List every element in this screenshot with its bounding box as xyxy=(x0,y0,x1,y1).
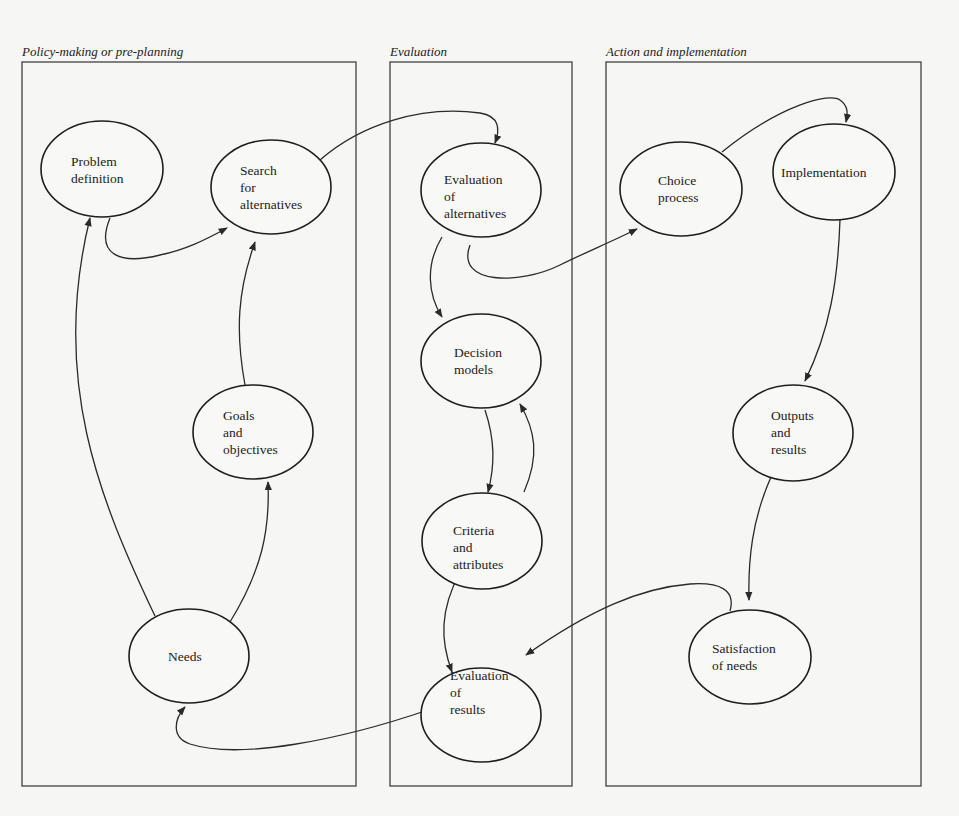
node-criteria-attributes xyxy=(422,493,542,589)
node-goals-objectives xyxy=(193,385,313,479)
label-needs: Needs xyxy=(168,649,202,664)
label-implementation: Implementation xyxy=(781,165,867,180)
edge-needs-to-goals xyxy=(230,482,268,622)
node-satisfaction-needs xyxy=(689,610,811,704)
edge-decision-to-criteria xyxy=(485,410,493,492)
node-problem-definition xyxy=(41,121,163,217)
edge-problem-to-search xyxy=(106,218,227,259)
edge-needs-to-problem xyxy=(76,218,155,616)
node-search-alternatives xyxy=(211,140,331,234)
node-evaluation-alternatives xyxy=(421,143,541,237)
process-diagram: Problemdefinition Searchforalternatives … xyxy=(0,0,959,816)
node-decision-models xyxy=(421,314,541,408)
node-outputs-results xyxy=(733,385,853,481)
edge-evalalt-to-decision xyxy=(430,237,442,317)
edge-outputs-to-satisfaction xyxy=(749,477,771,600)
node-choice-process xyxy=(620,142,742,236)
edge-goals-to-search xyxy=(239,242,255,385)
edge-criteria-to-decision xyxy=(520,404,534,492)
edge-impl-to-outputs xyxy=(805,219,840,381)
edge-criteria-to-evalresults xyxy=(444,572,460,672)
